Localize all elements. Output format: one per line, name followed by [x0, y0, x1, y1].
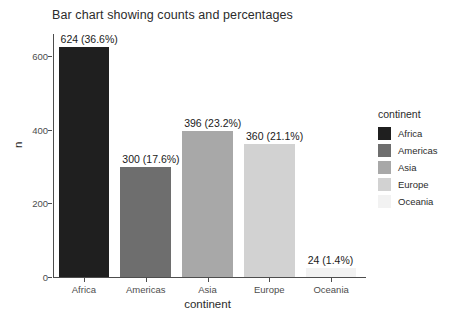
legend-swatch-oceania	[378, 195, 391, 208]
bars-layer	[53, 34, 362, 277]
legend-item-oceania[interactable]: Oceania	[378, 193, 460, 210]
y-tick-mark-400	[48, 130, 52, 131]
y-tick-mark-0	[48, 277, 52, 278]
bar-label-oceania: 24 (1.4%)	[308, 254, 354, 266]
legend-label-americas: Americas	[398, 145, 438, 156]
y-axis-title: n	[12, 142, 24, 148]
x-tick-label-europe: Europe	[254, 284, 285, 295]
bar-europe	[244, 144, 295, 277]
chart-title: Bar chart showing counts and percentages	[52, 8, 293, 22]
legend-item-europe[interactable]: Europe	[378, 176, 460, 193]
y-tick-mark-600	[48, 56, 52, 57]
x-tick-mark-americas	[146, 278, 147, 282]
legend-label-europe: Europe	[398, 179, 429, 190]
legend-item-americas[interactable]: Americas	[378, 142, 460, 159]
legend-swatch-europe	[378, 178, 391, 191]
x-tick-mark-africa	[84, 278, 85, 282]
legend-label-oceania: Oceania	[398, 196, 433, 207]
y-tick-label-600: 600	[32, 51, 48, 62]
bar-africa	[59, 47, 110, 277]
bar-label-americas: 300 (17.6%)	[122, 153, 179, 165]
legend-item-asia[interactable]: Asia	[378, 159, 460, 176]
legend-item-africa[interactable]: Africa	[378, 125, 460, 142]
x-tick-mark-asia	[208, 278, 209, 282]
bar-asia	[182, 131, 233, 277]
chart-root: Bar chart showing counts and percentages…	[0, 0, 460, 317]
legend-swatch-asia	[378, 161, 391, 174]
bar-oceania	[306, 268, 357, 277]
legend-title: continent	[378, 108, 460, 120]
x-tick-mark-oceania	[331, 278, 332, 282]
bar-label-europe: 360 (21.1%)	[246, 130, 303, 142]
legend-swatch-americas	[378, 144, 391, 157]
y-tick-mark-200	[48, 203, 52, 204]
x-axis-title: continent	[53, 298, 362, 310]
x-tick-label-americas: Americas	[126, 284, 166, 295]
x-tick-label-oceania: Oceania	[313, 284, 348, 295]
legend-swatch-africa	[378, 127, 391, 140]
legend-label-asia: Asia	[398, 162, 416, 173]
legend-items: AfricaAmericasAsiaEuropeOceania	[378, 125, 460, 210]
bar-label-asia: 396 (23.2%)	[184, 117, 241, 129]
y-tick-label-200: 200	[32, 198, 48, 209]
x-axis-line	[53, 277, 366, 278]
bar-americas	[120, 167, 171, 277]
x-tick-mark-europe	[269, 278, 270, 282]
y-axis-ticks: 0200400600	[22, 0, 48, 317]
legend-label-africa: Africa	[398, 128, 422, 139]
legend: continent AfricaAmericasAsiaEuropeOceani…	[378, 108, 460, 210]
bar-label-africa: 624 (36.6%)	[61, 33, 118, 45]
x-tick-label-asia: Asia	[198, 284, 216, 295]
y-tick-label-400: 400	[32, 124, 48, 135]
x-tick-label-africa: Africa	[72, 284, 96, 295]
